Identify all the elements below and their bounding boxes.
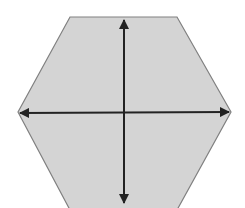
horizontal-axis-arrow <box>20 112 229 113</box>
hexagon-diagram <box>0 0 245 208</box>
diagram-canvas <box>0 0 245 208</box>
